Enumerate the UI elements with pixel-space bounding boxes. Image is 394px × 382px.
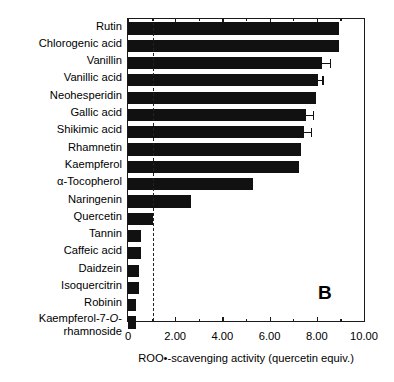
error-bar-cap <box>330 59 331 68</box>
bar-row <box>128 141 364 158</box>
bar-row <box>128 245 364 262</box>
bar <box>128 178 253 190</box>
category-label: Neohesperidin <box>50 90 122 102</box>
x-tick-label: 10.00 <box>334 330 394 342</box>
axis-tick-major <box>364 18 365 23</box>
bar-row <box>128 37 364 54</box>
category-label: Tannin <box>89 228 122 240</box>
category-label: Gallic acid <box>70 107 122 119</box>
bar-row <box>128 158 364 175</box>
category-label: Rutin <box>96 21 122 33</box>
bar <box>128 213 153 225</box>
category-label: Robinin <box>84 297 122 309</box>
error-bar-cap <box>322 76 323 85</box>
bar <box>128 195 191 207</box>
bar <box>128 22 339 34</box>
category-label: Isoquercitrin <box>61 280 122 292</box>
bar <box>128 299 136 311</box>
category-label: Quercetin <box>73 211 122 223</box>
bar <box>128 247 141 259</box>
bar <box>128 143 301 155</box>
bar-row <box>128 89 364 106</box>
category-label: Vanillic acid <box>64 72 122 84</box>
error-bar <box>304 132 311 133</box>
bar-row <box>128 124 364 141</box>
bar-row <box>128 193 364 210</box>
axis-tick-major <box>364 317 365 322</box>
error-bar-cap <box>313 111 314 120</box>
category-label: Daidzein <box>78 263 122 275</box>
chart-figure: RutinChlorogenic acidVanillinVanillic ac… <box>0 0 394 382</box>
bar <box>128 109 306 121</box>
bar <box>128 265 139 277</box>
bar-row <box>128 262 364 279</box>
bar-row <box>128 55 364 72</box>
bar <box>128 92 316 104</box>
bar-row <box>128 107 364 124</box>
bar <box>128 282 139 294</box>
error-bar-cap <box>311 128 312 137</box>
category-label: Caffeic acid <box>64 245 122 257</box>
bar <box>128 74 318 86</box>
bar-row <box>128 314 364 331</box>
error-bar <box>322 63 330 64</box>
category-label: Chlorogenic acid <box>39 38 122 50</box>
category-label: Vanillin <box>87 55 122 67</box>
bar-row <box>128 210 364 227</box>
bar <box>128 40 339 52</box>
bar-row <box>128 228 364 245</box>
bar-row <box>128 72 364 89</box>
reference-line <box>153 18 154 321</box>
bar <box>128 316 136 328</box>
category-label: Kaempferol <box>65 159 122 171</box>
bar-row <box>128 20 364 37</box>
bar <box>128 126 304 138</box>
axis-right <box>364 18 365 322</box>
bar <box>128 230 141 242</box>
bar <box>128 57 322 69</box>
error-bar <box>306 115 313 116</box>
category-label: α-Tocopherol <box>57 176 122 188</box>
category-label: Rhamnetin <box>68 142 122 154</box>
panel-label: B <box>318 282 332 304</box>
bar-row <box>128 176 364 193</box>
category-label: Shikimic acid <box>57 124 122 136</box>
plot-area: B <box>128 20 364 320</box>
x-axis-title: ROO•-scavenging activity (quercetin equi… <box>128 352 364 364</box>
category-label: Naringenin <box>68 194 122 206</box>
